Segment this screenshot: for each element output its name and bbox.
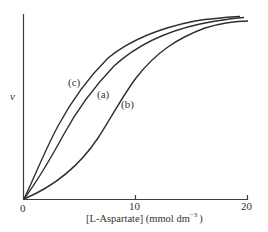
x-axis-label-sup: −3 <box>190 211 198 219</box>
x-axis-label-main: [L-Aspartate] (mmol dm <box>86 213 190 225</box>
chart: v (c) (a) (b) 0 10 20 [L-Aspartate] (mmo… <box>0 0 268 232</box>
y-axis-label: v <box>10 90 15 102</box>
curve-b <box>24 21 248 199</box>
x-tick-label-10: 10 <box>129 200 141 212</box>
x-tick-label-0: 0 <box>20 202 26 214</box>
curve-c-label: (c) <box>68 76 81 89</box>
curve-b-label: (b) <box>121 98 134 111</box>
x-tick-label-20: 20 <box>241 200 253 212</box>
x-axis-label: [L-Aspartate] (mmol dm−3) <box>86 211 203 225</box>
curve-a-label: (a) <box>97 88 110 101</box>
x-axis-label-close: ) <box>199 213 203 225</box>
curve-a <box>24 18 244 200</box>
